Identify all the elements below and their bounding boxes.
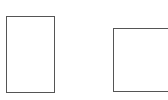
landscape-rectangle (113, 28, 168, 92)
portrait-rectangle (6, 16, 55, 93)
